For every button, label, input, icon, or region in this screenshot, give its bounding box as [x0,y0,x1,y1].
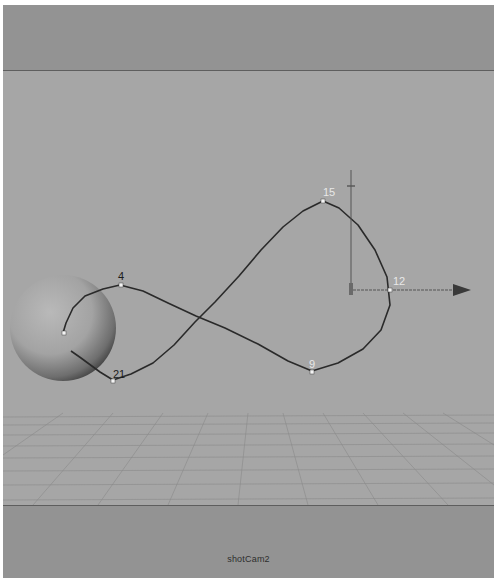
3d-viewport[interactable]: 4 15 12 9 21 shotCam2 [3,5,494,578]
cv-label-15: 15 [323,186,335,198]
manipulator-x-arrow-icon[interactable] [453,284,471,296]
cv-label-12: 12 [393,275,405,287]
curve-cvs[interactable] [62,199,392,383]
ground-grid [3,413,494,505]
scene-canvas[interactable]: 4 15 12 9 21 [3,5,494,578]
cv-label-9: 9 [309,358,315,370]
cv-label-21: 21 [113,368,125,380]
move-manipulator[interactable] [347,170,471,296]
nurbs-curve[interactable] [63,201,390,380]
cv-label-4: 4 [118,270,124,282]
camera-name-label: shotCam2 [3,554,494,564]
